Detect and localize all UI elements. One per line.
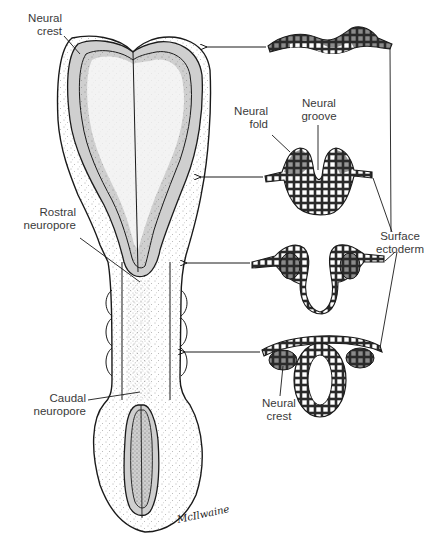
label-neural-groove: Neural groove xyxy=(296,97,342,123)
cross-section-folds-elevating xyxy=(186,245,384,314)
label-neural-crest-bottom: Neural crest xyxy=(257,397,301,423)
label-caudal-neuropore: Caudal neuropore xyxy=(28,392,86,418)
label-neural-crest-top: Neural crest xyxy=(22,12,62,38)
label-rostral-neuropore: Rostral neuropore xyxy=(18,206,76,232)
label-neural-fold: Neural fold xyxy=(228,105,268,131)
cross-section-neural-plate xyxy=(206,27,392,54)
label-surface-ectoderm: Surface ectoderm xyxy=(368,230,432,256)
neural-canal xyxy=(308,355,332,405)
neural-tube-diagram: McIlwaine xyxy=(0,0,439,551)
cross-section-neural-groove xyxy=(200,148,372,215)
embryo-dorsal-view: McIlwaine xyxy=(58,36,231,532)
